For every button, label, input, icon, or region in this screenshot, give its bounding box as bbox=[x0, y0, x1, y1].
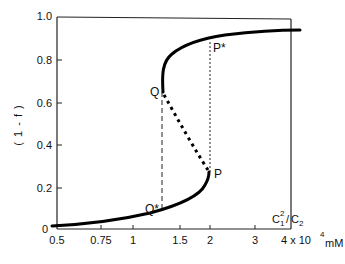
y-axis-label: ( 1 - f ) bbox=[12, 104, 24, 145]
x-tick-label: 2 bbox=[207, 234, 213, 246]
x-tick-labels: 0.5 0.75 1 1.5 2 3 4 x 10 bbox=[49, 234, 311, 246]
svg-text:C: C bbox=[291, 213, 299, 225]
svg-text:/: / bbox=[286, 213, 290, 225]
chart: 1.0 0.8 0.6 0.4 0.2 0 ( 1 - f ) 0.5 0.75… bbox=[0, 0, 345, 264]
y-tick-label: 0.2 bbox=[37, 182, 52, 194]
x-tick-label: 1 bbox=[130, 234, 136, 246]
y-tick-label: 0 bbox=[42, 223, 48, 235]
x-tick-label: 0.5 bbox=[49, 234, 64, 246]
upper-stable-branch bbox=[163, 30, 300, 92]
point-label-qstar: Q* bbox=[145, 202, 159, 216]
x-axis-variable-label: C 2 1 / C 2 bbox=[272, 209, 304, 228]
y-ticks bbox=[57, 60, 62, 188]
y-tick-label: 1.0 bbox=[37, 10, 52, 22]
x-unit: mM bbox=[325, 237, 343, 249]
point-label-pstar: P* bbox=[213, 41, 226, 55]
svg-text:2: 2 bbox=[280, 209, 285, 218]
y-tick-label: 0.4 bbox=[37, 139, 52, 151]
x-tick-label: 1.5 bbox=[172, 234, 187, 246]
lower-stable-branch bbox=[52, 172, 209, 226]
y-tick-labels: 1.0 0.8 0.6 0.4 0.2 0 bbox=[37, 10, 52, 235]
point-label-p: P bbox=[214, 167, 222, 181]
axes bbox=[57, 17, 291, 229]
point-label-q: Q bbox=[150, 85, 159, 99]
top-border bbox=[57, 17, 291, 19]
y-tick-label: 0.6 bbox=[37, 97, 52, 109]
y-tick-label: 0.8 bbox=[37, 54, 52, 66]
x-tick-label: 3 bbox=[252, 234, 258, 246]
svg-text:1: 1 bbox=[280, 219, 285, 228]
x-tick-label: 0.75 bbox=[90, 234, 111, 246]
svg-text:2: 2 bbox=[299, 219, 304, 228]
svg-text:C: C bbox=[272, 213, 280, 225]
x-tick-label: 4 x 10 bbox=[281, 234, 311, 246]
unstable-branch bbox=[163, 93, 208, 170]
